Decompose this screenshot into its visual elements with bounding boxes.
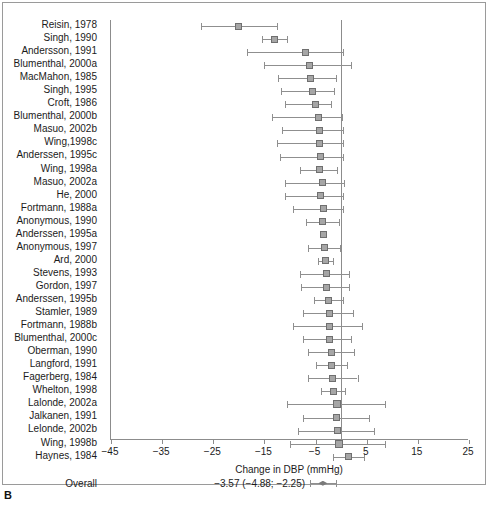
study-label: Wing,1998c bbox=[0, 135, 104, 148]
study-effect-marker bbox=[316, 127, 323, 134]
confidence-interval-cap bbox=[287, 401, 288, 408]
axis-tick-label: −5 bbox=[309, 446, 320, 457]
confidence-interval-cap bbox=[343, 206, 344, 213]
confidence-interval-cap bbox=[336, 75, 337, 82]
confidence-interval-line bbox=[282, 130, 342, 131]
study-label: Gordon, 1997 bbox=[0, 279, 104, 292]
confidence-interval-cap bbox=[349, 271, 350, 278]
confidence-interval-cap bbox=[321, 388, 322, 395]
axis-tick bbox=[418, 440, 419, 444]
confidence-interval-cap bbox=[277, 23, 278, 30]
study-label: Fortmann, 1988b bbox=[0, 318, 104, 331]
study-effect-marker bbox=[316, 140, 323, 147]
study-effect-marker bbox=[328, 349, 335, 356]
ci-row bbox=[111, 190, 468, 203]
ci-row bbox=[111, 268, 468, 281]
study-label: Stevens, 1993 bbox=[0, 266, 104, 279]
confidence-interval-cap bbox=[343, 140, 344, 147]
confidence-interval-cap bbox=[201, 23, 202, 30]
study-label: Anonymous, 1997 bbox=[0, 240, 104, 253]
confidence-interval-cap bbox=[334, 88, 335, 95]
ci-row bbox=[111, 398, 468, 411]
confidence-interval-cap bbox=[358, 375, 359, 382]
ci-row bbox=[111, 137, 468, 150]
confidence-interval-cap bbox=[281, 88, 282, 95]
study-label: Stamler, 1989 bbox=[0, 305, 104, 318]
study-effect-marker bbox=[317, 153, 324, 160]
confidence-interval-cap bbox=[285, 180, 286, 187]
confidence-interval-line bbox=[281, 91, 335, 92]
confidence-interval-cap bbox=[278, 75, 279, 82]
confidence-interval-cap bbox=[337, 167, 338, 174]
ci-row bbox=[111, 242, 468, 255]
study-label: Anderssen, 1995c bbox=[0, 148, 104, 161]
study-label: Blumenthal, 2000c bbox=[0, 331, 104, 344]
confidence-interval-cap bbox=[262, 36, 263, 43]
study-label: Fortmann, 1988a bbox=[0, 201, 104, 214]
study-effect-marker bbox=[319, 179, 326, 186]
confidence-interval-line bbox=[285, 104, 331, 105]
confidence-interval-cap bbox=[308, 245, 309, 252]
ci-row bbox=[111, 255, 468, 268]
study-effect-marker bbox=[309, 88, 316, 95]
ci-row bbox=[111, 177, 468, 190]
study-effect-marker bbox=[321, 244, 328, 251]
ci-row bbox=[111, 359, 468, 372]
axis-tick bbox=[316, 440, 317, 444]
overall-diamond-marker bbox=[318, 481, 327, 486]
study-label: He, 2000 bbox=[0, 188, 104, 201]
ci-row bbox=[111, 229, 468, 242]
study-effect-marker bbox=[271, 36, 278, 43]
study-effect-marker bbox=[333, 414, 340, 421]
confidence-interval-cap bbox=[280, 154, 281, 161]
confidence-interval-cap bbox=[285, 101, 286, 108]
ci-row bbox=[111, 412, 468, 425]
confidence-interval-cap bbox=[308, 375, 309, 382]
confidence-interval-cap bbox=[345, 388, 346, 395]
study-label: Reisin, 1978 bbox=[0, 18, 104, 31]
study-label: Blumenthal, 2000b bbox=[0, 109, 104, 122]
confidence-interval-cap bbox=[277, 140, 278, 147]
study-effect-marker bbox=[323, 270, 330, 277]
confidence-interval-cap bbox=[316, 362, 317, 369]
axis-tick-label: −15 bbox=[255, 446, 272, 457]
ci-row bbox=[111, 425, 468, 438]
confidence-interval-cap bbox=[331, 101, 332, 108]
ci-row bbox=[111, 59, 468, 72]
confidence-interval-cap bbox=[303, 415, 304, 422]
confidence-interval-cap bbox=[353, 310, 354, 317]
confidence-interval-cap bbox=[349, 284, 350, 291]
confidence-interval-cap bbox=[303, 336, 304, 343]
confidence-interval-cap bbox=[293, 323, 294, 330]
axis-tick-label: −25 bbox=[204, 446, 221, 457]
study-effect-marker bbox=[325, 297, 332, 304]
confidence-interval-cap bbox=[290, 441, 291, 448]
study-effect-marker bbox=[334, 427, 341, 434]
confidence-interval-cap bbox=[298, 428, 299, 435]
confidence-interval-cap bbox=[303, 310, 304, 317]
confidence-interval-cap bbox=[351, 336, 352, 343]
study-effect-marker bbox=[320, 231, 327, 238]
confidence-interval-cap bbox=[287, 36, 288, 43]
confidence-interval-cap bbox=[343, 193, 344, 200]
confidence-interval-line bbox=[280, 157, 343, 158]
confidence-interval-cap bbox=[343, 297, 344, 304]
overall-summary-text: −3.57 (−4.88; −2.25) bbox=[130, 477, 305, 490]
ci-row bbox=[111, 98, 468, 111]
study-effect-marker bbox=[306, 62, 313, 69]
study-effect-marker bbox=[326, 310, 333, 317]
ci-row bbox=[111, 203, 468, 216]
confidence-interval-line bbox=[293, 209, 343, 210]
study-effect-marker bbox=[333, 400, 341, 408]
forest-plot: Reisin, 1978Singh, 1990Andersson, 1991Bl… bbox=[0, 0, 484, 483]
overall-ci-cap bbox=[310, 480, 311, 487]
confidence-interval-cap bbox=[300, 271, 301, 278]
confidence-interval-cap bbox=[385, 401, 386, 408]
ci-row bbox=[111, 72, 468, 85]
study-effect-marker bbox=[330, 388, 337, 395]
confidence-interval-cap bbox=[272, 114, 273, 121]
axis-tick bbox=[162, 440, 163, 444]
study-effect-marker bbox=[335, 440, 343, 448]
study-label: Lelonde, 2002b bbox=[0, 422, 104, 435]
confidence-interval-line bbox=[272, 117, 342, 118]
